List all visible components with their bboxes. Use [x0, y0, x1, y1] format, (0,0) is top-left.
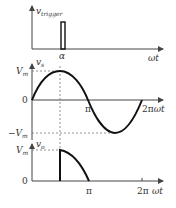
trigger-x-label: ωt	[148, 53, 159, 63]
output-panel: vo Vm 0 π 2π ωt	[16, 139, 163, 196]
trigger-panel: vtrigger α ωt	[32, 6, 163, 63]
output-two-pi-label: 2π	[137, 186, 149, 196]
vm-label: Vm	[16, 66, 29, 77]
output-x-label: ωt	[152, 186, 163, 196]
neg-vm-label: −Vm	[8, 128, 28, 139]
source-panel: vs Vm 0 −Vm π 2πωt	[8, 57, 165, 155]
waveform-diagram: vtrigger α ωt vs Vm 0 −Vm π 2πωt vo Vm 0…	[0, 0, 176, 208]
output-zero-label: 0	[22, 176, 28, 186]
output-vm-label: Vm	[16, 145, 29, 156]
output-y-label: vo	[36, 139, 45, 150]
pi-label: π	[85, 104, 91, 114]
alpha-label: α	[59, 51, 65, 61]
trigger-y-label: vtrigger	[36, 6, 64, 18]
output-pi-label: π	[86, 186, 92, 196]
source-sine-curve	[32, 71, 142, 133]
zero-label: 0	[22, 95, 28, 105]
output-curve	[60, 150, 89, 181]
trigger-pulse	[61, 22, 65, 49]
two-pi-label: 2πωt	[142, 104, 165, 114]
source-y-label: vs	[36, 57, 44, 68]
